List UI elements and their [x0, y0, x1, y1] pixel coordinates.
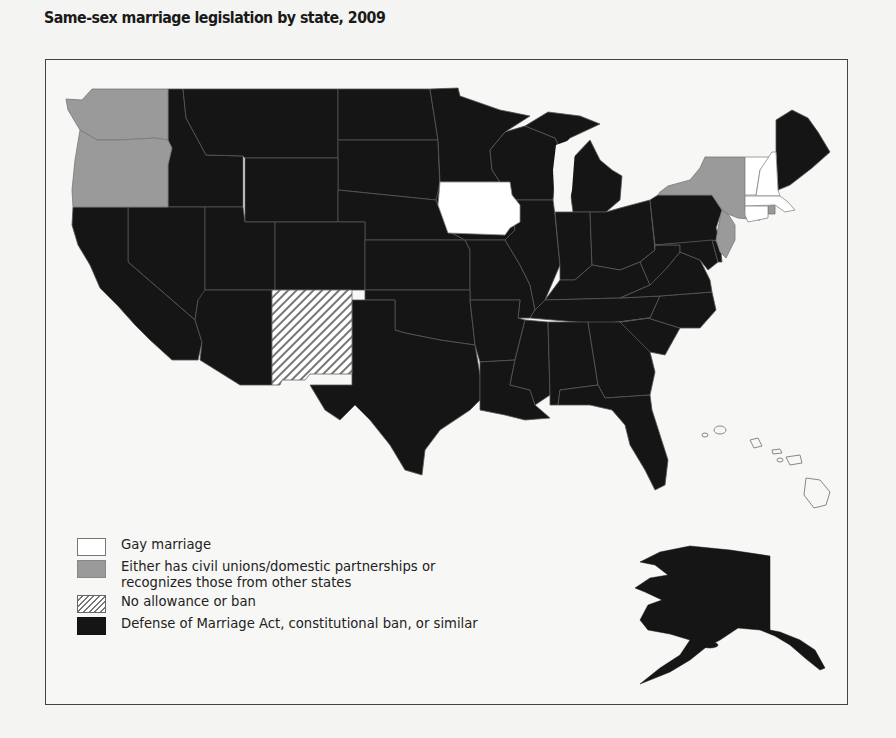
legend-item-no-allowance: No allowance or ban — [77, 594, 541, 613]
state-rhode-island — [768, 205, 775, 214]
state-arizona — [195, 290, 272, 385]
state-north-dakota — [338, 89, 438, 140]
state-montana — [183, 89, 338, 158]
state-wyoming — [245, 158, 338, 222]
state-connecticut — [745, 206, 768, 222]
legend-label: No allowance or ban — [121, 594, 541, 610]
state-alaska — [635, 546, 825, 684]
state-oregon — [72, 130, 172, 207]
state-pennsylvania — [650, 195, 722, 245]
legend-label: Defense of Marriage Act, constitutional … — [121, 616, 541, 632]
state-florida — [558, 385, 668, 490]
no-allowance-states — [272, 290, 352, 385]
swatch-hatched-icon — [77, 595, 106, 613]
state-kansas — [365, 240, 470, 290]
legend-item-civil-unions: Either has civil unions/domestic partner… — [77, 559, 541, 591]
swatch-white-icon — [77, 538, 106, 556]
state-colorado — [275, 222, 365, 290]
state-south-dakota — [338, 140, 440, 200]
swatch-gray-icon — [77, 560, 106, 578]
state-iowa — [438, 182, 520, 235]
map-legend: Gay marriage Either has civil unions/dom… — [77, 537, 541, 638]
legend-label: Either has civil unions/domestic partner… — [121, 559, 451, 591]
legend-item-doma-ban: Defense of Marriage Act, constitutional … — [77, 616, 541, 635]
state-new-mexico — [272, 290, 352, 385]
legend-item-gay-marriage: Gay marriage — [77, 537, 541, 556]
legend-label: Gay marriage — [121, 537, 541, 553]
state-hawaii — [702, 426, 830, 508]
swatch-black-icon — [77, 617, 106, 635]
state-maine — [776, 110, 830, 190]
